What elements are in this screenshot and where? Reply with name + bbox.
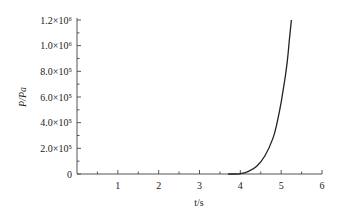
y-tick-label: 2.0×10⁵ bbox=[40, 143, 72, 154]
y-axis: 02.0×10⁵4.0×10⁵6.0×10⁵8.0×10⁵1.0×10⁶1.2×… bbox=[40, 15, 81, 180]
y-tick-label: 0 bbox=[67, 169, 72, 180]
y-tick-label: 1.0×10⁶ bbox=[40, 40, 72, 51]
x-tick-label: 6 bbox=[320, 180, 325, 191]
x-tick-label: 1 bbox=[115, 180, 120, 191]
x-tick-label: 5 bbox=[279, 180, 284, 191]
x-tick-label: 4 bbox=[238, 180, 243, 191]
x-axis-title: t/s bbox=[194, 197, 204, 208]
x-axis: 123456 bbox=[77, 170, 325, 191]
x-tick-label: 3 bbox=[197, 180, 202, 191]
y-tick-label: 8.0×10⁵ bbox=[40, 66, 72, 77]
pressure-time-chart: 02.0×10⁵4.0×10⁵6.0×10⁵8.0×10⁵1.0×10⁶1.2×… bbox=[0, 0, 340, 216]
pressure-curve bbox=[228, 20, 291, 174]
y-tick-label: 1.2×10⁶ bbox=[40, 15, 72, 26]
x-tick-label: 2 bbox=[156, 180, 161, 191]
y-axis-title: P/Pa bbox=[17, 87, 28, 108]
y-tick-label: 6.0×10⁵ bbox=[40, 92, 72, 103]
y-tick-label: 4.0×10⁵ bbox=[40, 117, 72, 128]
